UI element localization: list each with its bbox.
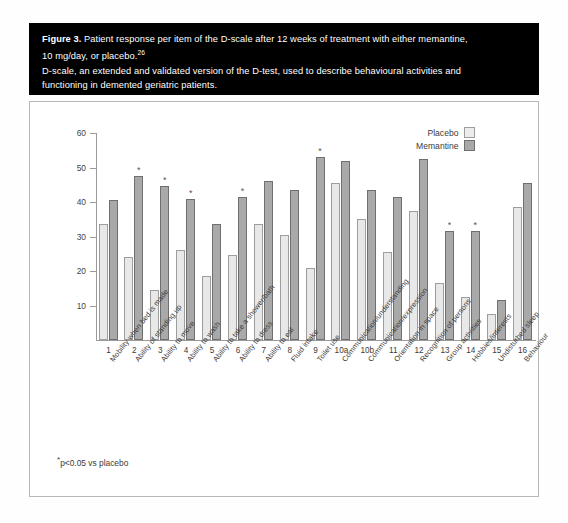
bar-group: [331, 133, 351, 340]
y-tick-label-40: 40: [60, 197, 86, 207]
figure-caption: Figure 3. Patient response per item of t…: [29, 23, 539, 95]
legend-item-placebo: Placebo: [416, 126, 475, 139]
caption-line-1: Figure 3. Patient response per item of t…: [42, 32, 526, 46]
footnote-text: p<0.05 vs placebo: [60, 458, 128, 468]
bar-memantine: [186, 199, 195, 340]
bar-group: [513, 133, 533, 340]
bar-memantine: [341, 161, 350, 340]
significance-star: *: [186, 190, 195, 196]
y-tick-label-30: 30: [60, 232, 86, 242]
y-tick-label-60: 60: [60, 128, 86, 138]
bar-group: [487, 133, 507, 340]
y-tick-label-10: 10: [60, 301, 86, 311]
significance-star: *: [445, 222, 454, 228]
bar-placebo: [99, 224, 108, 340]
significance-footnote: *p<0.05 vs placebo: [57, 455, 128, 468]
legend-label-placebo: Placebo: [427, 128, 458, 138]
significance-star: *: [471, 222, 480, 228]
bar-group: [202, 133, 222, 340]
bar-memantine: [290, 190, 299, 340]
bar-group: *: [306, 133, 326, 340]
bar-placebo: [331, 183, 340, 340]
y-tick-label-50: 50: [60, 163, 86, 173]
y-tick-label-20: 20: [60, 266, 86, 276]
bar-placebo: [357, 219, 366, 340]
bar-placebo: [409, 211, 418, 340]
chart-legend: Placebo Memantine: [416, 126, 475, 152]
bar-group: [99, 133, 119, 340]
legend-swatch-memantine: [464, 140, 475, 151]
legend-item-memantine: Memantine: [416, 139, 475, 152]
significance-star: *: [134, 167, 143, 173]
legend-label-memantine: Memantine: [416, 141, 459, 151]
caption-text-1: Patient response per item of the D-scale…: [84, 34, 468, 44]
bar-group: *: [228, 133, 248, 340]
bar-placebo: [254, 224, 263, 340]
bar-placebo: [280, 235, 289, 340]
bar-group: [280, 133, 300, 340]
bar-placebo: [513, 207, 522, 340]
bar-group: [357, 133, 377, 340]
caption-reference: 26: [137, 49, 144, 56]
bar-memantine: [316, 157, 325, 340]
plot-area: *******: [96, 133, 536, 340]
bar-group: *: [124, 133, 144, 340]
caption-line-3: D-scale, an extended and validated versi…: [42, 64, 526, 78]
figure-label: Figure 3.: [42, 34, 81, 44]
significance-star: *: [160, 177, 169, 183]
significance-star: *: [316, 148, 325, 154]
bar-memantine: [264, 181, 273, 340]
figure-page: Figure 3. Patient response per item of t…: [0, 0, 568, 523]
bar-memantine: [109, 200, 118, 340]
legend-swatch-placebo: [464, 127, 475, 138]
caption-line-4: functioning in demented geriatric patien…: [42, 78, 526, 92]
significance-star: *: [238, 188, 247, 194]
caption-line-2: 10 mg/day, or placebo.26: [42, 46, 526, 63]
x-axis-line: [96, 340, 536, 341]
caption-text-2: 10 mg/day, or placebo.: [42, 51, 137, 61]
